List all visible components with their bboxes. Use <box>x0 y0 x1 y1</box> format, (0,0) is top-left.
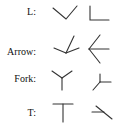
fork-junction-1-icon <box>52 71 72 90</box>
l-junction-v-icon <box>53 6 77 19</box>
arrow-junction-1-icon <box>54 36 79 53</box>
fork-junction-2-icon <box>93 74 111 90</box>
l-junction-corner-icon <box>90 6 109 20</box>
t-junction-1-icon <box>53 104 73 122</box>
arrow-junction-2-icon <box>89 35 109 63</box>
t-junction-2-icon <box>92 106 112 119</box>
junction-diagram <box>0 0 121 126</box>
